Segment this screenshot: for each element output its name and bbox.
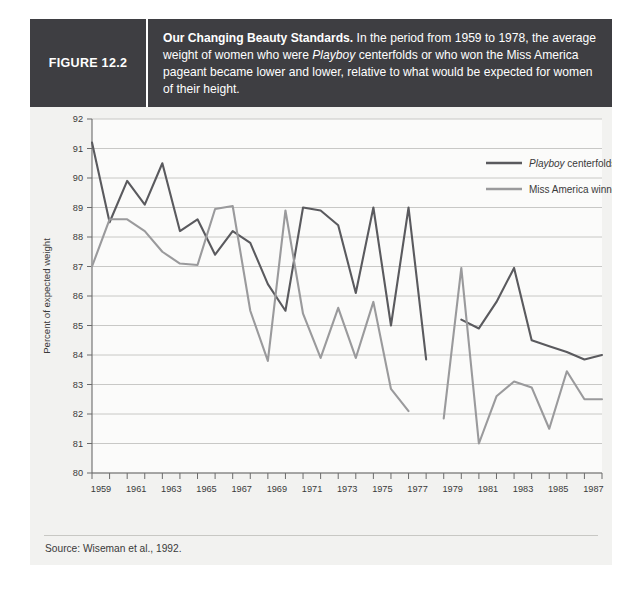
y-axis-tick-label: 82 <box>73 409 83 419</box>
y-axis-tick-label: 89 <box>73 203 83 213</box>
x-axis-tick-label: 1959 <box>91 484 111 494</box>
legend-item-miss-america-label: Miss America winners <box>529 184 612 195</box>
page-root: { "figure": { "number_label": "FIGURE 12… <box>0 0 642 600</box>
x-axis-tick-label: 1971 <box>302 484 322 494</box>
y-axis-tick-label: 81 <box>73 439 83 449</box>
x-axis-tick-label: 1975 <box>372 484 392 494</box>
caption-lead: Our Changing Beauty Standards. <box>163 31 353 45</box>
figure-caption-cell: Our Changing Beauty Standards. In the pe… <box>148 19 612 107</box>
x-axis-tick-label: 1985 <box>548 484 568 494</box>
figure-caption: Our Changing Beauty Standards. In the pe… <box>163 30 596 99</box>
x-axis-tick-label: 1983 <box>513 484 533 494</box>
y-axis-tick-label: 83 <box>73 380 83 390</box>
x-axis-tick-label: 1973 <box>337 484 357 494</box>
y-axis-tick-label: 84 <box>73 350 83 360</box>
figure-number-cell: FIGURE 12.2 <box>30 19 148 107</box>
y-axis-tick-label: 91 <box>73 144 83 154</box>
figure-number-label: FIGURE 12.2 <box>49 56 127 70</box>
y-axis-tick-label: 88 <box>73 232 83 242</box>
x-axis-tick-label: 1981 <box>478 484 498 494</box>
y-axis-tick-label: 87 <box>73 262 83 272</box>
x-axis-tick-label: 1967 <box>231 484 251 494</box>
x-axis-tick-label: 1963 <box>161 484 181 494</box>
y-axis-tick-label: 80 <box>73 468 83 478</box>
figure-header-bar: FIGURE 12.2 Our Changing Beauty Standard… <box>30 19 612 107</box>
y-axis-tick-label: 85 <box>73 321 83 331</box>
x-axis-tick-label: 1965 <box>196 484 216 494</box>
x-axis-tick-label: 1979 <box>442 484 462 494</box>
y-axis-tick-label: 92 <box>73 114 83 124</box>
x-axis-tick-label: 1961 <box>126 484 146 494</box>
x-axis-tick-label: 1977 <box>407 484 427 494</box>
x-axis-tick-label: 1969 <box>267 484 287 494</box>
y-axis-tick-label: 86 <box>73 291 83 301</box>
caption-italic-playboy: Playboy <box>312 48 355 62</box>
source-note: Source: Wiseman et al., 1992. <box>45 543 181 554</box>
line-chart: 8081828384858687888990919219591961196319… <box>30 107 612 535</box>
legend-item-playboy-label: Playboy centerfolds <box>529 158 612 169</box>
source-divider <box>44 535 598 536</box>
y-axis-tick-label: 90 <box>73 173 83 183</box>
figure-card: FIGURE 12.2 Our Changing Beauty Standard… <box>30 19 612 565</box>
y-axis-title: Percent of expected weight <box>41 238 52 354</box>
x-axis-tick-label: 1987 <box>583 484 603 494</box>
chart-area: 8081828384858687888990919219591961196319… <box>30 107 612 535</box>
